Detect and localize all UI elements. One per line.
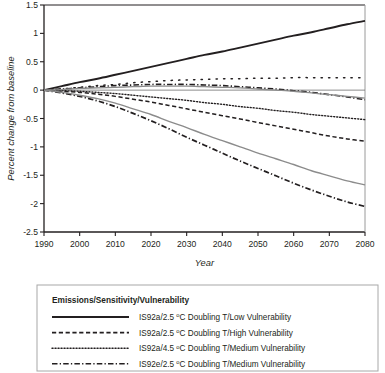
x-axis-tick-label: 1990 xyxy=(34,239,53,249)
x-axis-tick-label: 2080 xyxy=(355,239,374,249)
x-axis-tick-label: 2070 xyxy=(320,239,339,249)
x-axis-tick-label: 2040 xyxy=(213,239,232,249)
legend-entry-label: IS92e/2.5 oC Doubling T/Medium Vulnerabi… xyxy=(139,359,306,369)
legend-entry-label: IS92a/2.5 oC Doubling T/Low Vulnerabilit… xyxy=(139,312,292,322)
legend-entry-label: IS92a/2.5 oC Doubling T/High Vulnerabili… xyxy=(139,328,294,338)
series-line xyxy=(44,21,365,90)
x-axis-tick-label: 2030 xyxy=(177,239,196,249)
y-axis-tick-label: -1 xyxy=(30,142,38,152)
y-axis-tick-label: 1.5 xyxy=(26,0,38,10)
x-axis-tick-label: 2020 xyxy=(141,239,160,249)
chart-figure: 1.510.50-0.5-1-1.5-2-2.51990200020102020… xyxy=(0,0,385,373)
series-line xyxy=(44,90,365,120)
legend-title: Emissions/Sensitivity/Vulnerability xyxy=(52,295,189,305)
y-axis-tick-label: -2 xyxy=(30,199,38,209)
legend-entry-label: IS92a/4.5 oC Doubling T/Medium Vulnerabi… xyxy=(139,344,306,354)
x-axis-tick-label: 2010 xyxy=(106,239,125,249)
y-axis-tick-label: -1.5 xyxy=(23,170,38,180)
series-line xyxy=(44,90,365,206)
x-axis-tick-label: 2050 xyxy=(248,239,267,249)
x-axis-title: Year xyxy=(195,257,215,268)
y-axis-tick-label: -2.5 xyxy=(23,227,38,237)
series-line xyxy=(44,90,365,185)
y-axis-tick-label: -0.5 xyxy=(23,114,38,124)
x-axis-tick-label: 2000 xyxy=(70,239,89,249)
y-axis-tick-label: 0 xyxy=(33,85,38,95)
y-axis-title: Percent change from baseline xyxy=(5,56,16,181)
y-axis-tick-label: 1 xyxy=(33,28,38,38)
x-axis-tick-label: 2060 xyxy=(284,239,303,249)
emissions-percent-change-line-chart: 1.510.50-0.5-1-1.5-2-2.51990200020102020… xyxy=(0,0,385,373)
y-axis-tick-label: 0.5 xyxy=(26,57,38,67)
